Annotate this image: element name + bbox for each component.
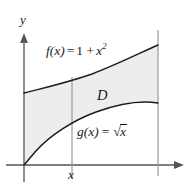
curve-f-label: f(x)=1 +x2 (46, 42, 107, 57)
y-axis-label: y (20, 13, 26, 26)
plot-canvas (0, 0, 189, 196)
curve-f-function-name: f(x) (46, 43, 65, 58)
y-axis-arrowhead (20, 33, 28, 43)
curve-f-rhs-variable: x (94, 43, 102, 58)
x-axis-arrowhead (174, 161, 184, 169)
curve-f-equals: = (65, 43, 77, 58)
shaded-region-d (24, 45, 158, 165)
math-figure: y x D f(x)=1 +x2 g(x)=√x (0, 0, 189, 196)
curve-g-equals: = (99, 124, 113, 139)
curve-f-rhs-constant: 1 + (76, 43, 94, 58)
x-axis-label: x (68, 168, 74, 181)
curve-g-radicand: x (120, 124, 127, 139)
square-root-icon: √x (112, 124, 127, 139)
curve-g-label: g(x)=√x (77, 124, 127, 139)
region-label-d: D (97, 88, 107, 103)
curve-g-function-name: g(x) (77, 124, 99, 139)
curve-f-rhs-exponent: 2 (102, 41, 107, 51)
